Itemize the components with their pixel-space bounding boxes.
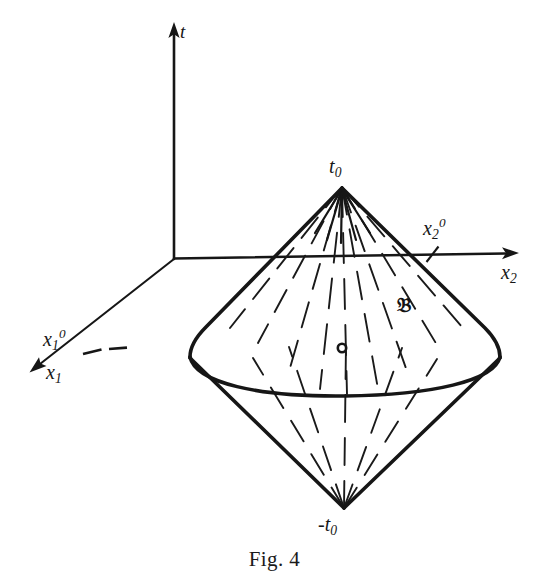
x2-axis-label-base: x [501, 261, 510, 283]
x2-zero-label-base: x [423, 217, 432, 239]
x1-axis-label-base: x [46, 361, 55, 383]
x2-zero-label-superscript: 0 [439, 215, 446, 230]
negative-t0-label-prefix: - [318, 513, 325, 535]
x1-axis-label-subscript: 1 [55, 371, 62, 386]
light-cone-figure-svg [0, 0, 549, 577]
apex-stroke-3 [341, 189, 342, 243]
x1-zero-tick [83, 350, 102, 355]
x1-zero-label-base: x [43, 328, 52, 350]
lower-cone-generatrices [253, 344, 437, 508]
generatrix-upper-4 [320, 187, 342, 389]
x1-axis-label: x1 [46, 362, 62, 382]
axes-group [30, 22, 520, 373]
x2-axis [174, 247, 519, 259]
upper-cone-right-edge [342, 188, 500, 357]
x1-zero-label-subscript: 1 [52, 338, 59, 353]
t-axis-label: t [180, 22, 185, 41]
generatrix-lower-2 [289, 347, 344, 508]
x1-zero-dash [109, 348, 127, 349]
origin-point-marker [338, 344, 346, 352]
x2-axis-label: x2 [501, 262, 517, 282]
generatrix-lower-3 [344, 344, 346, 508]
x1-zero-label: x10 [43, 329, 65, 349]
x2-zero-label: x20 [423, 218, 445, 238]
region-b-label: 𝔅 [397, 295, 411, 315]
lower-cone-right-edge [344, 358, 500, 508]
negative-t0-label: -t0 [318, 514, 337, 534]
x2-axis-line [174, 254, 505, 259]
x1-axis [30, 259, 175, 373]
negative-t0-label-subscript: 0 [330, 523, 337, 538]
figure-caption: Fig. 4 [0, 547, 549, 572]
x1-axis-arrowhead [30, 357, 47, 372]
t-axis [168, 22, 179, 259]
t0-apex-label-base: t [329, 155, 335, 177]
t0-apex-label: t0 [329, 156, 341, 176]
x1-zero-label-superscript: 0 [59, 326, 66, 341]
figure-container: t x2 x1 x10 x20 t0 -t0 𝔅 Fig. 4 [0, 0, 549, 577]
generatrix-upper-7 [342, 187, 408, 374]
t0-apex-label-subscript: 0 [335, 165, 342, 180]
upper-cone-left-edge [190, 188, 342, 357]
x2-zero-label-subscript: 2 [432, 227, 439, 242]
x2-axis-label-subscript: 2 [510, 271, 517, 286]
